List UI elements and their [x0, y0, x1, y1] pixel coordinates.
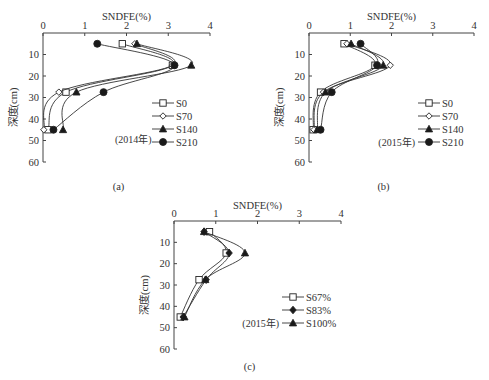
square-marker-icon [290, 294, 296, 300]
x-tick-label: 3 [297, 208, 302, 219]
x-tick-label: 1 [213, 208, 218, 219]
circle-marker-icon [50, 126, 57, 133]
circle-marker-icon [328, 89, 335, 96]
y-tick-label: 50 [29, 135, 40, 146]
y-tick-label: 10 [295, 49, 306, 60]
y-tick-label: 30 [295, 92, 306, 103]
series-s140 [59, 40, 194, 133]
circle-marker-icon [357, 40, 364, 47]
series-s0 [45, 41, 176, 133]
y-tick-label: 10 [29, 49, 40, 60]
circle-marker-icon [171, 62, 178, 69]
x-tick-label: 1 [348, 20, 353, 31]
x-tick-label: 3 [166, 20, 171, 31]
legend-label: S0 [442, 98, 453, 109]
legend-label: S210 [176, 137, 198, 148]
y-tick-label: 60 [295, 157, 306, 168]
chart-panel-b: SNDFE(%)01234102030405060深度(cm)S0S70S140… [273, 11, 477, 193]
series-s70 [41, 41, 176, 133]
legend-item: S210 [418, 137, 464, 148]
legend-label: S70 [176, 111, 192, 122]
square-marker-icon [160, 100, 166, 106]
circle-marker-icon [426, 139, 433, 146]
series-s83pct [180, 228, 232, 321]
circle-marker-icon [100, 89, 107, 96]
legend-item: S70 [418, 111, 458, 122]
y-tick-label: 40 [160, 301, 171, 312]
series-line [48, 44, 174, 130]
legend-label: S67% [306, 292, 331, 303]
triangle-marker-icon [59, 126, 66, 133]
y-axis-title: 深度(cm) [138, 275, 151, 315]
legend-item: S83% [282, 305, 331, 316]
y-tick-label: 40 [295, 114, 306, 125]
triangle-marker-icon [188, 62, 195, 69]
legend-label: S83% [306, 305, 331, 316]
x-tick-label: 3 [430, 20, 435, 31]
square-marker-icon [426, 100, 432, 106]
series-line [53, 44, 174, 130]
year-annotation: (2015年) [242, 317, 279, 330]
legend-item: S140 [152, 124, 198, 135]
x-tick-label: 0 [40, 20, 45, 31]
series-line [180, 232, 226, 317]
y-tick-label: 20 [160, 258, 171, 269]
x-tick-label: 2 [255, 208, 260, 219]
square-marker-icon [196, 276, 202, 282]
y-tick-label: 30 [160, 280, 171, 291]
legend-label: S210 [442, 137, 464, 148]
y-tick-label: 50 [160, 322, 171, 333]
panel-label: (a) [113, 181, 125, 193]
series-line [44, 44, 175, 130]
year-annotation: (2015年) [378, 136, 415, 149]
chart-panel-a: SNDFE(%)01234102030405060深度(cm)S0S70S140… [7, 11, 213, 193]
y-tick-label: 40 [29, 114, 40, 125]
series-s67pct [177, 228, 229, 320]
diamond-marker-icon [290, 306, 296, 314]
panel-label: (c) [244, 361, 256, 373]
circle-marker-icon [94, 40, 101, 47]
panel-label: (b) [377, 181, 390, 193]
y-tick-label: 10 [160, 237, 171, 248]
legend-item: S100% [282, 318, 337, 329]
figure-canvas: SNDFE(%)01234102030405060深度(cm)S0S70S140… [0, 0, 489, 380]
year-annotation: (2014年) [115, 133, 152, 146]
square-marker-icon [119, 41, 125, 47]
circle-marker-icon [317, 126, 324, 133]
legend-label: S140 [442, 124, 464, 135]
diamond-marker-icon [426, 113, 432, 119]
x-tick-label: 0 [171, 208, 176, 219]
legend-item: S210 [152, 137, 198, 148]
series-line [314, 44, 391, 130]
legend-label: S0 [176, 98, 187, 109]
y-tick-label: 60 [160, 344, 171, 355]
x-tick-label: 4 [338, 208, 344, 219]
circle-marker-icon [374, 62, 381, 69]
legend-item: S70 [152, 111, 192, 122]
series-s210 [317, 40, 381, 133]
series-s0 [310, 41, 378, 133]
legend: S67%S83%S100% [282, 292, 337, 329]
legend-item: S140 [418, 124, 464, 135]
x-tick-label: 4 [207, 20, 213, 31]
x-tick-label: 0 [306, 20, 311, 31]
legend-item: S67% [282, 292, 331, 303]
y-tick-label: 60 [29, 157, 40, 168]
legend: S0S70S140S210 [152, 98, 198, 148]
series-s100pct [181, 228, 249, 320]
y-tick-label: 20 [29, 71, 40, 82]
chart-panel-c: SNDFE(%)01234102030405060深度(cm)S67%S83%S… [138, 200, 344, 373]
legend-item: S0 [418, 98, 453, 109]
series-line [317, 44, 383, 130]
diamond-marker-icon [160, 113, 166, 119]
triangle-marker-icon [241, 249, 248, 256]
x-tick-label: 4 [471, 20, 477, 31]
series-s70 [311, 41, 394, 133]
y-tick-label: 30 [29, 92, 40, 103]
y-tick-label: 50 [295, 135, 306, 146]
series-line [184, 232, 245, 317]
x-tick-label: 1 [82, 20, 87, 31]
legend: S0S70S140S210 [418, 98, 464, 148]
y-tick-label: 20 [295, 71, 306, 82]
legend-label: S70 [442, 111, 458, 122]
